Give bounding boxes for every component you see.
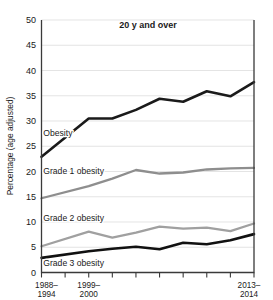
y-tick-label: 30 xyxy=(26,116,36,126)
x-tick-label: 1994 xyxy=(37,290,56,299)
y-tick-label: 20 xyxy=(26,167,36,177)
x-tick-label: 1999– xyxy=(77,281,100,290)
y-tick-label: 45 xyxy=(26,40,36,50)
y-tick-label: 15 xyxy=(26,192,36,202)
chart-container: 05101520253035404550 1988–19941999–20002… xyxy=(0,0,273,300)
series-label-grade-1-obesity: Grade 1 obesity xyxy=(43,166,104,176)
y-tick-label: 0 xyxy=(31,268,36,278)
y-tick-label: 10 xyxy=(26,217,36,227)
series-label-grade-3-obesity: Grade 3 obesity xyxy=(43,258,104,268)
series-label-obesity: Obesity xyxy=(43,128,73,138)
y-tick-label: 50 xyxy=(26,15,36,25)
y-tick-label: 40 xyxy=(26,66,36,76)
x-tick-label: 1988– xyxy=(35,281,58,290)
x-tick-label: 2014 xyxy=(240,290,259,299)
x-tick-label: 2013– xyxy=(238,281,261,290)
series-label-grade-2-obesity: Grade 2 obesity xyxy=(43,213,104,223)
y-axis-label: Percentage (age adjusted) xyxy=(5,96,15,195)
obesity-trend-line-chart: 05101520253035404550 1988–19941999–20002… xyxy=(0,0,273,300)
chart-title: 20 y and over xyxy=(119,20,177,30)
x-tick-label: 2000 xyxy=(80,290,99,299)
y-tick-label: 35 xyxy=(26,91,36,101)
y-tick-label: 25 xyxy=(26,141,36,151)
y-tick-label: 5 xyxy=(31,242,36,252)
